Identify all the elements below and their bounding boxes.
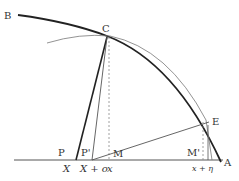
line-P'C xyxy=(92,37,107,160)
main-curve xyxy=(18,15,221,162)
label-M-prime: M' xyxy=(187,147,200,158)
osculating-arc xyxy=(47,35,212,160)
label-B: B xyxy=(4,10,11,21)
axis-label-x: x xyxy=(107,163,113,174)
axis-label-X: X xyxy=(62,163,71,174)
axis-label-X-plus-o: X + o xyxy=(79,163,108,174)
axis-label-x-plus-eta: x + η xyxy=(192,164,213,173)
label-E: E xyxy=(212,116,219,127)
line-PC xyxy=(76,37,107,160)
label-M: M xyxy=(113,148,123,159)
label-A: A xyxy=(223,157,232,168)
label-C: C xyxy=(102,23,110,34)
label-P-prime: P' xyxy=(81,147,90,158)
geometry-diagram: B C E A P P' M M' X X + o x x + η xyxy=(0,0,239,181)
label-P: P xyxy=(58,147,65,158)
